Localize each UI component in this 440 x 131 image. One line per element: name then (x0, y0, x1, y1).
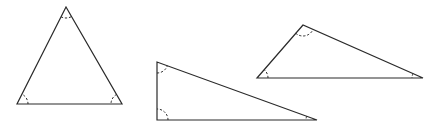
triangle-outline (157, 62, 317, 120)
angle-mark (157, 66, 167, 73)
angle-mark (111, 94, 117, 104)
triangle-obtuse-triangle (257, 25, 423, 78)
angle-mark (22, 94, 28, 104)
angle-mark (264, 70, 268, 78)
triangle-equilateral-like (17, 7, 122, 104)
angle-mark (412, 74, 413, 78)
angle-mark (61, 17, 71, 18)
triangle-right-triangle (157, 62, 317, 120)
triangle-outline (257, 25, 423, 78)
triangle-outline (17, 7, 122, 104)
triangles-diagram (0, 0, 440, 131)
angle-mark (157, 109, 168, 120)
